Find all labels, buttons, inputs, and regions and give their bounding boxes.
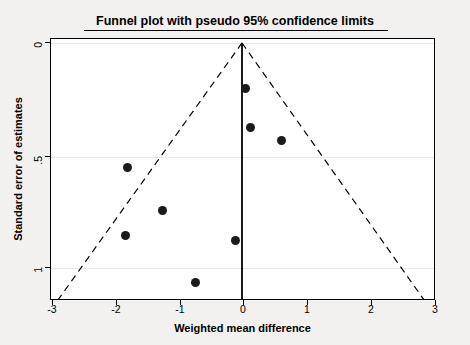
- x-tick-mark-2: [180, 300, 181, 305]
- data-point: [241, 84, 250, 93]
- data-point: [231, 236, 240, 245]
- y-tick-label-0: 0: [32, 42, 44, 72]
- y-axis-label: Standard error of estimates: [10, 38, 26, 300]
- title-underline: [84, 30, 388, 31]
- data-point: [191, 278, 200, 287]
- x-tick-mark-6: [435, 300, 436, 305]
- data-point: [246, 123, 255, 132]
- chart-title: Funnel plot with pseudo 95% confidence l…: [0, 14, 470, 28]
- data-point: [277, 136, 286, 145]
- x-tick-mark-5: [371, 300, 372, 305]
- x-tick-mark-0: [52, 300, 53, 305]
- funnel-plot-figure: Funnel plot with pseudo 95% confidence l…: [0, 0, 470, 345]
- x-tick-mark-4: [307, 300, 308, 305]
- data-point: [123, 163, 132, 172]
- data-point: [121, 231, 130, 240]
- x-tick-mark-1: [116, 300, 117, 305]
- y-tick-label-2: 1: [32, 267, 44, 297]
- x-tick-mark-3: [243, 300, 244, 305]
- pseudo-ci-right-limit: [242, 43, 429, 299]
- y-tick-label-1: .5: [32, 156, 44, 186]
- pseudo-ci-left-limit: [53, 43, 242, 299]
- funnel-lines: [51, 39, 434, 299]
- x-axis-label: Weighted mean difference: [50, 322, 435, 334]
- data-point: [158, 206, 167, 215]
- plot-area: [50, 38, 435, 300]
